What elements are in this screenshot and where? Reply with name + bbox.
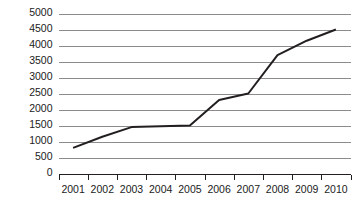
y-axis-tick-label: 3000 — [29, 70, 53, 82]
chart-canvas: 0500100015002000250030003500400045005000… — [0, 0, 364, 211]
y-axis-tick-label: 2000 — [29, 102, 53, 114]
y-axis-tick-label: 2500 — [29, 86, 53, 98]
y-axis-tick-label: 500 — [35, 150, 53, 162]
x-axis-tick-label: 2001 — [61, 183, 85, 195]
y-axis-tick-label: 4000 — [29, 38, 53, 50]
x-axis-tick-label: 2003 — [120, 183, 144, 195]
x-axis-tick-label: 2010 — [324, 183, 348, 195]
y-axis-tick-label: 3500 — [29, 54, 53, 66]
y-axis-tick-label: 5000 — [29, 6, 53, 18]
x-axis-tick-label: 2002 — [91, 183, 115, 195]
chart-background — [0, 0, 364, 211]
x-axis-tick-label: 2009 — [295, 183, 319, 195]
x-axis-tick-label: 2004 — [149, 183, 173, 195]
x-axis-tick-label: 2008 — [266, 183, 290, 195]
y-axis-tick-label: 0 — [47, 166, 53, 178]
x-axis-tick-label: 2007 — [237, 183, 261, 195]
y-axis-tick-label: 4500 — [29, 22, 53, 34]
x-axis-tick-label: 2005 — [178, 183, 202, 195]
line-chart: 0500100015002000250030003500400045005000… — [0, 0, 364, 211]
y-axis-tick-label: 1000 — [29, 134, 53, 146]
y-axis-tick-label: 1500 — [29, 118, 53, 130]
x-axis-tick-label: 2006 — [207, 183, 231, 195]
